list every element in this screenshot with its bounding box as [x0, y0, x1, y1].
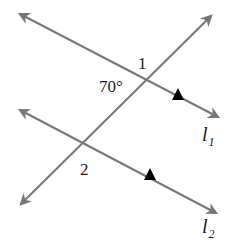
line-l2 [20, 110, 216, 213]
line-l1-label-sub: 1 [209, 135, 215, 149]
angle-2-label: 2 [80, 160, 89, 179]
line-l1-label: l1 [202, 123, 215, 149]
line-l2-label-sub: 2 [209, 227, 215, 241]
line-l1-label-main: l [202, 123, 208, 145]
line-l2-label: l2 [202, 215, 215, 241]
line-l1 [20, 14, 218, 117]
angle-70-label: 70° [99, 77, 123, 96]
transversal-line [21, 16, 211, 204]
angle-1-label: 1 [138, 54, 147, 73]
parallel-lines-diagram: 1 70° 2 l1 l2 [0, 0, 230, 246]
diagram-canvas: 1 70° 2 l1 l2 [0, 0, 230, 246]
line-l2-label-main: l [202, 215, 208, 237]
parallel-marker-l2-icon [144, 168, 156, 180]
